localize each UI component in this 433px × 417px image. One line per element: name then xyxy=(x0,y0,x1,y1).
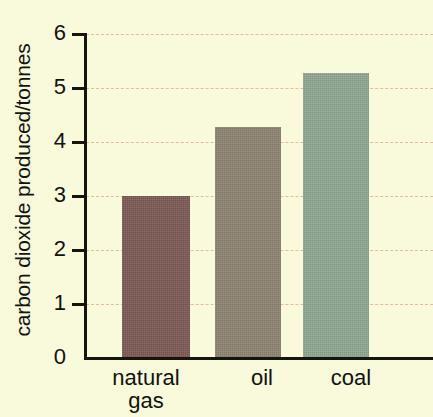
y-tick-label-5: 5 xyxy=(26,76,66,98)
y-tick-label-0: 0 xyxy=(26,346,66,368)
y-tick-label-2: 2 xyxy=(26,238,66,260)
y-tick-label-4: 4 xyxy=(26,130,66,152)
x-axis-label-natural-gas-line1: natural xyxy=(92,366,200,389)
y-tick-label-1: 1 xyxy=(26,292,66,314)
bar-natural-gas-fill xyxy=(122,196,190,358)
gridline-6 xyxy=(86,34,433,35)
x-axis-label-coal: coal xyxy=(297,366,405,389)
x-axis-line xyxy=(84,357,433,360)
x-axis-label-natural-gas-line2: gas xyxy=(92,389,200,412)
bar-oil xyxy=(215,127,281,358)
x-axis-label-natural-gas: natural gas xyxy=(92,366,200,412)
gridline-5 xyxy=(86,88,433,89)
bar-chart-figure: carbon dioxide produced/tonnes 6 5 4 3 2… xyxy=(0,0,433,417)
bar-coal-fill xyxy=(303,73,369,358)
bar-oil-fill xyxy=(215,127,281,358)
y-tick-label-6: 6 xyxy=(26,22,66,44)
plot-area xyxy=(86,34,433,358)
bar-natural-gas xyxy=(122,196,190,358)
bar-coal xyxy=(303,73,369,358)
y-tick-label-3: 3 xyxy=(26,184,66,206)
y-axis-line xyxy=(84,33,87,360)
